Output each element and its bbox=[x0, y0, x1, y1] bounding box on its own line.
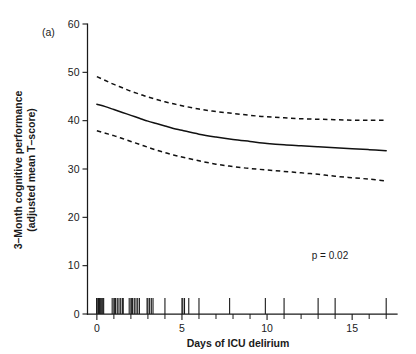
y-tick-label: 40 bbox=[68, 114, 80, 126]
chart-root: 0102030405060051015 bbox=[68, 18, 397, 334]
x-tick-label: 10 bbox=[261, 322, 273, 334]
y-tick-label: 20 bbox=[68, 211, 80, 223]
y-tick-label: 50 bbox=[68, 66, 80, 78]
x-tick-label: 5 bbox=[179, 322, 185, 334]
y-tick-label: 0 bbox=[74, 308, 80, 320]
p-value-annotation: p = 0.02 bbox=[312, 250, 349, 261]
chart-svg: 0102030405060051015 (a) Days of ICU deli… bbox=[0, 0, 416, 354]
y-tick-label: 10 bbox=[68, 259, 80, 271]
fitted-mean-line bbox=[97, 104, 386, 150]
x-tick-label: 0 bbox=[94, 322, 100, 334]
y-tick-label: 60 bbox=[68, 18, 80, 30]
x-axis-title: Days of ICU delirium bbox=[187, 337, 290, 349]
x-tick-label: 15 bbox=[346, 322, 358, 334]
figure-container: 0102030405060051015 (a) Days of ICU deli… bbox=[0, 0, 416, 354]
panel-label: (a) bbox=[42, 26, 55, 38]
confidence-band-upper bbox=[97, 77, 386, 121]
y-axis-title-line1: 3–Month cognitive performance bbox=[12, 90, 24, 249]
y-axis-title: 3–Month cognitive performance (adjusted … bbox=[12, 90, 37, 249]
y-tick-label: 30 bbox=[68, 163, 80, 175]
confidence-band-lower bbox=[97, 131, 386, 181]
y-axis-title-line2: (adjusted mean T–score) bbox=[25, 108, 37, 232]
